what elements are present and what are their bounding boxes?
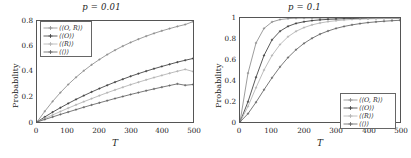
panel-right-legend: ⟨⟨O, R⟩⟩⟨⟨O⟩⟩⟨⟨R⟩⟩⟨⟨⟩⟩ (340, 93, 396, 129)
panel-left-legend-swatch-1 (43, 32, 58, 40)
panel-left-ytick-4: 0.8 (14, 16, 33, 25)
panel-left-legend-swatch-0 (43, 24, 58, 32)
panel-right-ytick-1: 0.2 (217, 97, 236, 106)
panel-left-xtick-2: 200 (89, 126, 109, 135)
panel-right-legend-swatch-2 (343, 112, 358, 120)
panel-right-ytick-5: 1 (217, 13, 236, 22)
panel-left-xtick-4: 400 (152, 126, 172, 135)
panel-right-legend-entry-2: ⟨⟨R⟩⟩ (343, 112, 392, 120)
chart-panel-left: p = 0.01 Probability 0.8 0.6 0.4 0.2 0 0… (0, 0, 203, 158)
panel-right-legend-label-3: ⟨⟨⟩⟩ (358, 120, 369, 128)
panel-left-legend-entry-1: ⟨⟨O⟩⟩ (43, 32, 88, 40)
panel-right-legend-swatch-0 (343, 96, 358, 104)
panel-right-legend-label-2: ⟨⟨R⟩⟩ (358, 112, 374, 120)
panel-left-xtick-0: 0 (26, 126, 46, 135)
panel-left-legend-label-0: ⟨⟨O, R⟩⟩ (58, 24, 83, 32)
panel-left-legend-label-1: ⟨⟨O⟩⟩ (58, 32, 74, 40)
panel-left-legend-entry-2: ⟨⟨R⟩⟩ (43, 40, 88, 48)
panel-left-legend-entry-3: ⟨⟨⟩⟩ (43, 48, 88, 56)
panel-left-legend-swatch-2 (43, 40, 58, 48)
panel-left-xtick-5: 500 (184, 126, 204, 135)
panel-right-ytick-2: 0.4 (217, 76, 236, 85)
series-markers-3 (37, 83, 193, 122)
panel-left-ytick-3: 0.6 (14, 41, 33, 50)
panel-left-legend: ⟨⟨O, R⟩⟩⟨⟨O⟩⟩⟨⟨R⟩⟩⟨⟨⟩⟩ (40, 21, 92, 57)
panel-left-title-text: p = 0.01 (82, 2, 121, 12)
panel-right-legend-swatch-1 (343, 104, 358, 112)
panel-left-legend-entry-0: ⟨⟨O, R⟩⟩ (43, 24, 88, 32)
panel-left-ytick-1: 0.2 (14, 92, 33, 101)
panel-right-legend-entry-3: ⟨⟨⟩⟩ (343, 120, 392, 128)
panel-right-legend-entry-0: ⟨⟨O, R⟩⟩ (343, 96, 392, 104)
panel-right-title-text: p = 0.1 (288, 2, 321, 12)
panel-left-legend-swatch-3 (43, 48, 58, 56)
panel-right-legend-label-0: ⟨⟨O, R⟩⟩ (358, 96, 383, 104)
panel-right-xtick-1: 100 (261, 126, 281, 135)
panel-right-x-axis-label: T (239, 138, 401, 148)
panel-right-xtick-0: 0 (229, 126, 249, 135)
panel-right-ytick-4: 0.8 (217, 34, 236, 43)
panel-left-ytick-2: 0.4 (14, 66, 33, 75)
chart-panel-right: p = 0.1 Probability 1 0.8 0.6 0.4 0.2 0 … (203, 0, 406, 158)
panel-left-legend-label-2: ⟨⟨R⟩⟩ (58, 40, 74, 48)
panel-right-legend-label-1: ⟨⟨O⟩⟩ (358, 104, 374, 112)
panel-right-title: p = 0.1 (203, 2, 406, 12)
panel-left-title: p = 0.01 (0, 2, 203, 12)
panel-right-legend-entry-1: ⟨⟨O⟩⟩ (343, 104, 392, 112)
panel-left-legend-label-3: ⟨⟨⟩⟩ (58, 48, 69, 56)
panel-left-x-axis-label: T (36, 138, 194, 148)
panel-right-legend-swatch-3 (343, 120, 358, 128)
panel-right-xtick-2: 200 (294, 126, 314, 135)
panel-left-xtick-3: 300 (121, 126, 141, 135)
panel-left-xtick-1: 100 (57, 126, 77, 135)
panel-right-ytick-3: 0.6 (217, 55, 236, 64)
